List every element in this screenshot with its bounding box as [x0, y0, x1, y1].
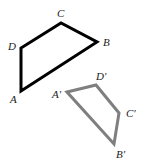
label-a-prime: A'	[51, 88, 62, 100]
label-b: B	[103, 36, 110, 48]
quadrilateral-a-prime-b-prime-c-prime-d-prime	[67, 85, 119, 144]
label-d: D	[7, 40, 16, 52]
label-a: A	[9, 93, 17, 105]
label-b-prime: B'	[116, 148, 126, 160]
quadrilateral-abcd	[21, 23, 97, 91]
transformation-diagram: A B C D A' B' C' D'	[0, 0, 146, 163]
label-d-prime: D'	[95, 70, 107, 82]
label-c-prime: C'	[126, 107, 136, 119]
label-c: C	[57, 7, 65, 19]
